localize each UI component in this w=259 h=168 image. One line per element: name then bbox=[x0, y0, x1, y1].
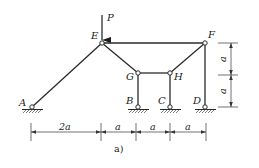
member-HF bbox=[170, 43, 205, 73]
dim-label-a-2: a bbox=[150, 121, 156, 132]
vdim-label-a-1: a bbox=[217, 56, 228, 62]
support-C bbox=[160, 110, 181, 114]
dim-label-2a: 2a bbox=[58, 121, 71, 132]
node-label-F: F bbox=[207, 29, 216, 40]
dim-label-a-1: a bbox=[115, 121, 121, 132]
vdim-label-a-2: a bbox=[217, 88, 228, 94]
hinge-D-icon bbox=[203, 105, 207, 109]
load-label: P bbox=[106, 12, 114, 23]
hinge-E-icon bbox=[100, 41, 104, 45]
support-B bbox=[128, 110, 149, 114]
truss-frame-diagram: P A B C D E F G H 2a a a a a a a) bbox=[0, 0, 259, 168]
support-A bbox=[22, 110, 43, 114]
hinge-F-icon bbox=[203, 41, 207, 45]
hinge-A-icon bbox=[30, 105, 34, 109]
node-label-G: G bbox=[126, 71, 134, 82]
member-AE bbox=[32, 43, 102, 107]
hinge-H-icon bbox=[168, 71, 172, 75]
support-D bbox=[195, 110, 216, 114]
hinge-B-icon bbox=[136, 105, 140, 109]
hinge-C-icon bbox=[168, 105, 172, 109]
vertical-dimension bbox=[218, 43, 238, 107]
dim-label-a-3: a bbox=[185, 121, 191, 132]
node-label-H: H bbox=[173, 71, 183, 82]
figure-caption: a) bbox=[114, 143, 123, 154]
node-label-A: A bbox=[18, 97, 26, 108]
node-label-C: C bbox=[158, 95, 166, 106]
node-label-E: E bbox=[90, 30, 99, 41]
member-EG bbox=[102, 43, 138, 73]
node-label-B: B bbox=[125, 95, 133, 106]
node-label-D: D bbox=[192, 95, 201, 106]
hinge-G-icon bbox=[136, 71, 140, 75]
